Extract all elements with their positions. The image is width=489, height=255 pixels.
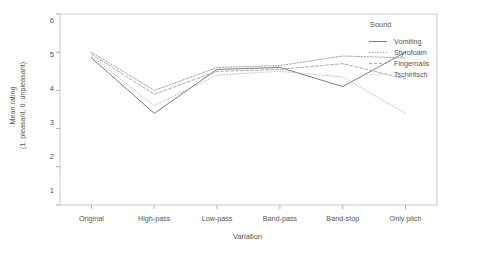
legend-swatch-line-icon <box>368 58 388 69</box>
legend-swatch-line-icon <box>368 47 388 58</box>
legend-item-fingernails[interactable]: Fingernails <box>368 58 478 69</box>
x-axis-title: Variation <box>0 232 489 241</box>
legend-item-label: Fingernails <box>388 59 429 68</box>
legend-swatch-line-icon <box>368 69 388 80</box>
x-tick-label: High-pass <box>138 214 170 223</box>
legend-title: Sound <box>368 20 478 29</box>
x-tick-label: Band-pass <box>263 214 297 223</box>
legend-item-label: Tschiritsch <box>388 70 428 79</box>
legend-item-label: Styrofoam <box>388 48 427 57</box>
x-tick-label: Original <box>79 214 104 223</box>
legend-item-label: Vomiting <box>388 37 422 46</box>
x-tick-label: Band-stop <box>326 214 359 223</box>
legend-swatch-line-icon <box>368 36 388 47</box>
line-chart-figure: Mean rating (1: pleasant, 6: unpleasant)… <box>0 0 489 255</box>
legend-item-tschiritsch[interactable]: Tschiritsch <box>368 69 478 80</box>
legend-item-styrofoam[interactable]: Styrofoam <box>368 47 478 58</box>
legend: Sound VomitingStyrofoamFingernailsTschir… <box>368 20 478 80</box>
legend-item-vomiting[interactable]: Vomiting <box>368 36 478 47</box>
x-tick-label: Only pitch <box>390 214 422 223</box>
x-axis-title-text: Variation <box>233 232 262 241</box>
series-line-vomiting <box>91 52 405 113</box>
x-tick-label: Low-pass <box>202 214 233 223</box>
series-line-fingernails <box>91 54 405 94</box>
